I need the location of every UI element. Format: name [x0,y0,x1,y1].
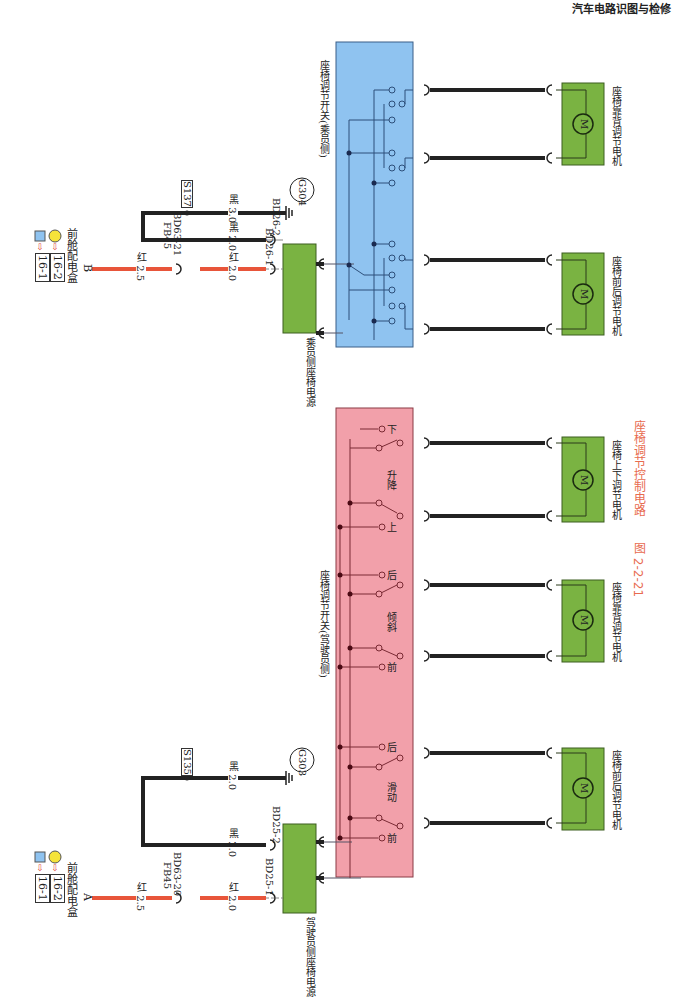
motor-symbol: M [579,289,589,299]
switch-tilt-front: 前 [385,662,395,672]
driver-wire-in-2: 红 2.0 [227,882,237,911]
figure-caption: 座椅调节控制电路 [630,420,647,516]
ref-box-16-1-b: 16-1 [35,253,50,282]
driver-power-module [283,824,316,913]
figure-number: 图 2-2-21 [630,542,647,597]
driver-ground-wire-1: 黑 2.0 [227,828,237,857]
driver-power-module-label: 驾驶员侧座椅电源 [287,917,315,997]
switch-slide-rear: 后 [385,742,395,752]
driver-splice: S135 [181,748,193,776]
motor-symbol: M [579,119,589,129]
svg-text:⇩: ⇩ [36,863,44,873]
passenger-ground-wire-1: 黑 2.0 [227,222,237,251]
ref-box-16-1-a: 16-1 [35,874,50,903]
source-a-id: A [82,893,93,901]
switch-group-slide: 滑动 [385,782,395,802]
svg-text:⇩: ⇩ [36,242,44,252]
driver-wire-in-1: 红 2.5 [135,882,145,911]
motor-symbol: M [579,783,589,793]
switch-pos-down: 下 [385,424,395,434]
connector-icons [176,235,324,903]
driver-fuse: FB45 [162,862,172,889]
switch-slide-front: 前 [385,833,395,843]
motor-symbol: M [579,475,589,485]
switch-group-tilt: 倾斜 [385,612,395,632]
passenger-power-module [283,244,316,333]
svg-text:⇩: ⇩ [51,863,59,873]
passenger-ground-wire-2: 黑 3.0 [227,194,237,223]
driver-motor-3-label: 座椅前后调节电机 [610,750,620,830]
switch-group-lift: 升降 [385,470,395,490]
passenger-fuse-connector: BD63-21 [172,212,182,256]
driver-fuse-connector: BD63-20 [172,852,182,896]
driver-ground: G303 [297,749,307,776]
driver-motor-1-label: 座椅上下调节电机 [610,440,620,520]
passenger-ground: G304 [297,179,307,206]
passenger-power-module-label: 乘员侧座椅电源 [287,337,315,407]
svg-text:⇩: ⇩ [51,242,59,252]
passenger-fuse: FB45 [162,222,172,249]
switch-pos-up: 上 [385,522,395,532]
source-b-id: B [82,264,93,272]
driver-switch-label: 座椅调节开关(驾驶员侧) [318,570,328,678]
passenger-switch-label: 座椅调节开关(乘员侧) [318,60,328,158]
source-ref-icons: ⇩ ⇩ ⇩ ⇩ [35,230,61,873]
driver-pin-2: BD25-2 [271,806,281,844]
motor-wires [424,85,552,828]
driver-ground-wire-2: 黑 2.0 [227,761,237,790]
driver-motor-2-label: 座椅靠背调节电机 [610,582,620,662]
passenger-wire-in-1: 红 2.5 [135,252,145,281]
source-b-name: 前舱配电盒 [66,228,77,283]
driver-pin-1: BD25-1 [264,858,274,896]
switch-tilt-rear: 后 [385,570,395,580]
passenger-pin-2: BD26-2 [271,198,281,236]
motor-symbol: M [579,615,589,625]
ref-box-16-2-a: 16-2 [50,874,65,903]
passenger-motor-2-label: 座椅前后调节电机 [610,256,620,336]
motor-icons [556,83,604,830]
passenger-wire-in-2: 红 2.0 [227,252,237,281]
driver-switch-box [336,408,413,877]
passenger-motor-1-label: 座椅靠背调节电机 [610,86,620,166]
source-a-name: 前舱配电盒 [66,862,77,917]
ref-box-16-2-b: 16-2 [50,253,65,282]
passenger-splice: S137 [181,180,193,208]
